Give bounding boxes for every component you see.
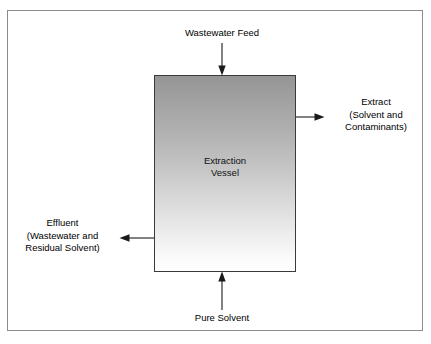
stream-label-effluent: Effluent (Wastewater and Residual Solven… xyxy=(6,217,119,255)
process-flow-diagram: Extraction Vessel Wastewater Feed Extrac… xyxy=(0,0,431,344)
stream-label-wastewater-feed: Wastewater Feed xyxy=(146,27,298,40)
stream-label-extract: Extract (Solvent and Contaminants) xyxy=(327,96,425,134)
extraction-vessel-label: Extraction Vessel xyxy=(154,155,296,179)
stream-label-pure-solvent: Pure Solvent xyxy=(146,312,298,325)
